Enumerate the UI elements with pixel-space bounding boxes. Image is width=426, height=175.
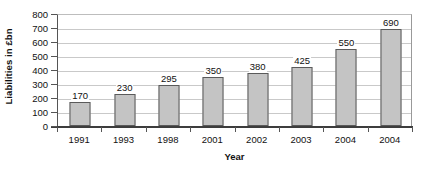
bar-value-label: 550 bbox=[338, 37, 356, 48]
y-axis-title-text: Liabilities in £bn bbox=[3, 28, 14, 104]
x-tick-label: 1991 bbox=[69, 134, 90, 145]
x-axis-title: Year bbox=[57, 151, 412, 162]
bar-value-label: 350 bbox=[204, 65, 222, 76]
bar[interactable] bbox=[292, 67, 313, 127]
bar-slot: 230 bbox=[102, 15, 146, 126]
y-tick-label: 800 bbox=[32, 9, 48, 20]
bar-slot: 550 bbox=[324, 15, 368, 126]
x-tick-mark bbox=[190, 127, 191, 132]
bar-value-label: 170 bbox=[71, 90, 89, 101]
y-tick-mark bbox=[51, 42, 57, 43]
bar-value-label: 380 bbox=[249, 61, 267, 72]
bar-chart: Liabilities in £bn 010020030040050060070… bbox=[0, 0, 426, 175]
bar-slot: 295 bbox=[147, 15, 191, 126]
y-tick-mark bbox=[51, 98, 57, 99]
x-tick-mark bbox=[368, 127, 369, 132]
bar[interactable] bbox=[247, 73, 268, 126]
y-tick-mark bbox=[51, 70, 57, 71]
bar-value-label: 295 bbox=[160, 73, 178, 84]
bar[interactable] bbox=[70, 102, 91, 126]
x-tick-mark bbox=[57, 127, 58, 132]
x-axis-line bbox=[51, 126, 413, 128]
bar-value-label: 230 bbox=[116, 82, 134, 93]
y-tick-label: 0 bbox=[43, 121, 48, 132]
x-tick-mark bbox=[279, 127, 280, 132]
x-tick-mark bbox=[146, 127, 147, 132]
y-tick-mark bbox=[51, 14, 57, 15]
bar-slot: 170 bbox=[58, 15, 102, 126]
bar-slot: 690 bbox=[369, 15, 413, 126]
x-tick-label: 2001 bbox=[202, 134, 223, 145]
bar-value-label: 425 bbox=[293, 55, 311, 66]
y-tick-label: 500 bbox=[32, 51, 48, 62]
bars-layer: 170230295350380425550690 bbox=[58, 15, 411, 126]
x-tick-mark bbox=[101, 127, 102, 132]
y-tick-label: 100 bbox=[32, 107, 48, 118]
y-tick-label: 400 bbox=[32, 65, 48, 76]
bar[interactable] bbox=[380, 29, 401, 126]
x-tick-label: 2004 bbox=[335, 134, 356, 145]
y-tick-label: 200 bbox=[32, 93, 48, 104]
y-axis-title: Liabilities in £bn bbox=[0, 0, 16, 132]
x-tick-label: 1993 bbox=[113, 134, 134, 145]
y-tick-label: 700 bbox=[32, 23, 48, 34]
y-tick-mark bbox=[51, 28, 57, 29]
y-tick-label: 300 bbox=[32, 79, 48, 90]
x-tick-label: 2003 bbox=[290, 134, 311, 145]
x-tick-mark bbox=[235, 127, 236, 132]
y-tick-mark bbox=[51, 84, 57, 85]
y-axis-tick-labels: 0100200300400500600700800 bbox=[16, 8, 50, 132]
plot-area: 170230295350380425550690 bbox=[57, 14, 412, 126]
x-tick-mark bbox=[412, 127, 413, 132]
x-tick-mark bbox=[323, 127, 324, 132]
bar-slot: 425 bbox=[280, 15, 324, 126]
bar[interactable] bbox=[158, 85, 179, 126]
x-axis-tick-labels: 19911993199820012002200320042004 bbox=[57, 134, 412, 150]
bar[interactable] bbox=[336, 49, 357, 126]
bar-value-label: 690 bbox=[382, 17, 400, 28]
y-tick-mark bbox=[51, 112, 57, 113]
y-tick-label: 600 bbox=[32, 37, 48, 48]
y-tick-mark bbox=[51, 56, 57, 57]
bar[interactable] bbox=[114, 94, 135, 126]
x-tick-label: 2004 bbox=[379, 134, 400, 145]
bar-slot: 380 bbox=[236, 15, 280, 126]
x-tick-label: 1998 bbox=[157, 134, 178, 145]
x-tick-label: 2002 bbox=[246, 134, 267, 145]
bar[interactable] bbox=[203, 77, 224, 126]
bar-slot: 350 bbox=[191, 15, 235, 126]
